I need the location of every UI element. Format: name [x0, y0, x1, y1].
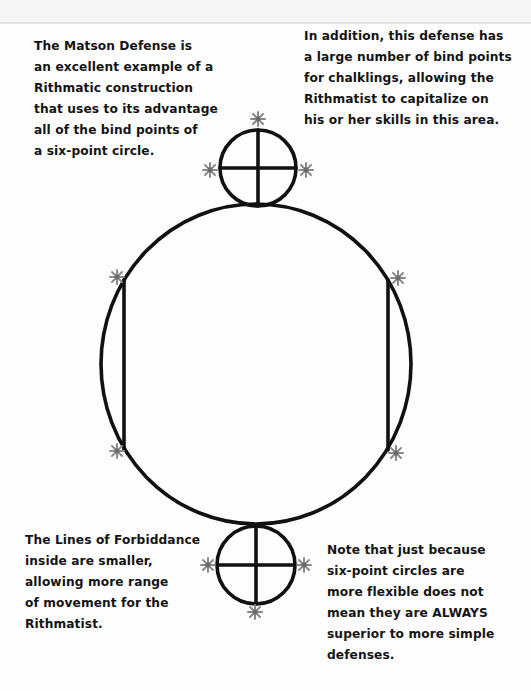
bind-point-icon	[297, 558, 311, 572]
top-ward-circle	[220, 130, 296, 206]
bind-point-icon	[201, 558, 215, 572]
bind-point-icon	[251, 112, 265, 126]
bind-point-icon	[248, 605, 262, 619]
bind-point-icon	[299, 163, 313, 177]
bind-point-icon	[110, 444, 124, 458]
bind-point-icon	[110, 270, 124, 284]
bind-point-icon	[203, 163, 217, 177]
matson-defense-diagram	[0, 0, 531, 691]
bind-point-icon	[391, 271, 405, 285]
main-six-point-circle	[101, 204, 411, 524]
bottom-ward-circle	[217, 526, 295, 604]
bind-point-icon	[389, 446, 403, 460]
